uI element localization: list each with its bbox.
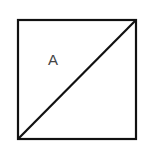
square-diagram: A (0, 0, 149, 151)
diagonal-line (19, 21, 135, 138)
region-label-a: A (48, 51, 58, 68)
